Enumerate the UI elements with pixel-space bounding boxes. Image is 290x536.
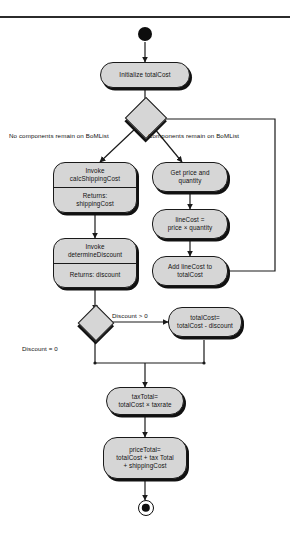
action-add-linecost-to-totalcost[interactable]: Add lineCost to totalCost xyxy=(152,256,228,286)
edge-decision-discount-zero xyxy=(95,334,145,363)
edge-label-components-remain: Components remain on BoMList xyxy=(148,132,239,140)
action-get-price-line2: quantity xyxy=(179,177,202,184)
call-action-determinediscount-returns-line1: Returns: discount xyxy=(70,271,121,279)
final-node xyxy=(138,500,154,516)
merge-junction-left xyxy=(93,361,96,364)
edge-label-no-components: No components remain on BoMList xyxy=(9,132,109,140)
action-get-price-line1: Get price and xyxy=(170,169,209,176)
action-apply-discount-line2: totalCost - discount xyxy=(177,322,233,329)
activity-diagram-canvas: Initialize totalCost No components remai… xyxy=(0,0,290,536)
call-action-calcshippingcost-returns-line2: shippingCost xyxy=(76,200,114,207)
action-taxtotal-line2: totalCost × taxrate xyxy=(118,401,171,408)
action-pricetotal-line3: + shippingCost xyxy=(123,462,166,469)
action-get-price-and-quantity[interactable]: Get price and quantity xyxy=(152,162,228,192)
call-action-determinediscount-call-line2: determineDiscount xyxy=(68,251,122,258)
call-action-calcshippingcost-returns: Returns: shippingCost xyxy=(54,188,136,212)
call-action-calcshippingcost[interactable]: Invoke calcShippingCost Returns: shippin… xyxy=(53,162,137,213)
edge-loopback-to-decision xyxy=(158,119,275,271)
action-apply-discount-line1: totalCost= xyxy=(190,314,220,321)
call-action-determinediscount-call: Invoke determineDiscount xyxy=(54,239,136,264)
initial-node xyxy=(138,27,152,41)
action-linecost-line1: lineCost = xyxy=(175,216,204,223)
action-add-linecost-line2: totalCost xyxy=(177,271,203,278)
action-pricetotal-line1: priceTotal= xyxy=(129,446,161,453)
edge-label-discount-gt-zero: Discount > 0 xyxy=(112,312,148,320)
action-initialize-totalcost-label: Initialize totalCost xyxy=(116,71,173,79)
call-action-determinediscount[interactable]: Invoke determineDiscount Returns: discou… xyxy=(53,238,137,288)
action-pricetotal[interactable]: priceTotal= totalCost + tax Total + ship… xyxy=(103,437,187,479)
action-linecost-line2: price × quantity xyxy=(168,224,212,231)
edge-apply-discount-to-merge xyxy=(145,340,204,363)
action-taxtotal[interactable]: taxTotal= totalCost × taxrate xyxy=(106,387,184,415)
call-action-calcshippingcost-call-line1: Invoke xyxy=(85,167,104,174)
call-action-calcshippingcost-call: Invoke calcShippingCost xyxy=(54,163,136,188)
action-initialize-totalcost[interactable]: Initialize totalCost xyxy=(100,62,190,88)
action-apply-discount[interactable]: totalCost= totalCost - discount xyxy=(168,307,242,337)
merge-junction-right xyxy=(202,361,205,364)
call-action-determinediscount-returns: Returns: discount xyxy=(54,264,136,288)
edge-label-discount-eq-zero: Discount = 0 xyxy=(22,345,58,353)
call-action-determinediscount-call-line1: Invoke xyxy=(85,243,104,250)
action-taxtotal-line1: taxTotal= xyxy=(132,393,158,400)
action-pricetotal-line2: totalCost + tax Total xyxy=(116,454,173,461)
action-add-linecost-line1: Add lineCost to xyxy=(168,263,212,270)
action-linecost[interactable]: lineCost = price × quantity xyxy=(152,209,228,239)
call-action-calcshippingcost-returns-line1: Returns: xyxy=(83,192,108,199)
call-action-calcshippingcost-call-line2: calcShippingCost xyxy=(70,175,120,182)
